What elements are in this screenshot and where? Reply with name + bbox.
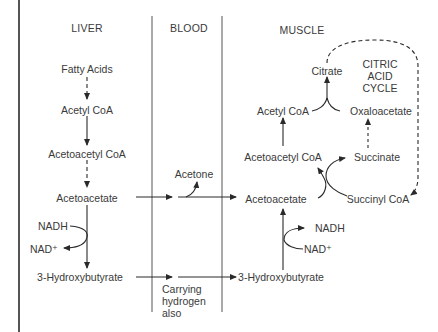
ketone-body-metabolism-diagram: LIVER BLOOD MUSCLE Fatty Acids Acetyl Co…	[0, 0, 438, 332]
muscle-oxaloacetate-label: Oxaloacetate	[350, 105, 412, 117]
citric-acid-cycle-label: CITRIC ACID CYCLE	[362, 58, 397, 94]
muscle-acetoacetate-label: Acetoacetate	[245, 193, 306, 205]
muscle-header: MUSCLE	[280, 24, 325, 36]
liver-hydroxybutyrate-label: 3-Hydroxybutyrate	[37, 271, 123, 283]
liver-nadh-label: NADH	[38, 220, 68, 232]
acetoacetate-to-acetoacetyl-coa-arrow	[318, 168, 326, 198]
muscle-citrate-label: Citrate	[312, 65, 343, 77]
liver-acetoacetyl-coa-label: Acetoacetyl CoA	[48, 148, 126, 160]
muscle-nad-label: NAD⁺	[304, 243, 332, 255]
muscle-acetyl-coa-label: Acetyl CoA	[257, 105, 309, 117]
muscle-succinyl-coa-label: Succinyl CoA	[347, 193, 409, 205]
liver-nad-label: NAD⁺	[30, 243, 58, 255]
oxaloacetate-to-citrate-joining-line	[327, 98, 340, 111]
muscle-acetoacetyl-coa-label: Acetoacetyl CoA	[244, 151, 322, 163]
muscle-succinate-label: Succinate	[354, 151, 400, 163]
liver-header: LIVER	[71, 22, 102, 34]
acetyl-coa-to-citrate-joining-line	[312, 98, 327, 111]
muscle-hydroxybutyrate-label: 3-Hydroxybutyrate	[238, 271, 324, 283]
blood-carrying-hydrogen-note: Carrying hydrogen also	[162, 283, 206, 319]
liver-acetoacetate-label: Acetoacetate	[56, 192, 117, 204]
blood-header: BLOOD	[170, 22, 208, 34]
muscle-nadh-label: NADH	[315, 222, 345, 234]
blood-acetone-label: Acetone	[175, 168, 214, 180]
acetone-branch-arrow	[186, 182, 197, 197]
succinyl-coa-to-succinate-arrow	[326, 158, 347, 196]
liver-acetyl-coa-label: Acetyl CoA	[61, 104, 113, 116]
liver-fatty-acids-label: Fatty Acids	[61, 63, 112, 75]
muscle-nad-nadh-arrow	[284, 228, 304, 249]
